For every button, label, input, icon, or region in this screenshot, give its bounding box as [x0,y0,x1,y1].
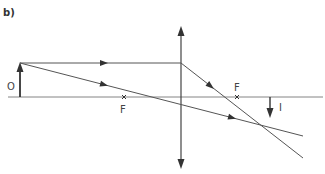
ray-direction-arrow-icon [100,60,108,66]
ray-direction-arrow-icon [206,81,215,89]
ray-diagram: b) O F F I [0,0,325,174]
lens-bottom-arrowhead-icon [178,159,185,169]
converging-lens [178,26,185,169]
part-label: b) [3,7,15,18]
lens-top-arrowhead-icon [178,26,185,36]
object-arrow [17,62,24,97]
image-label: I [279,102,282,113]
object-label: O [7,81,15,92]
image-arrow [267,97,274,118]
ray-parallel [20,60,303,158]
ray-central [20,63,303,136]
ray-direction-arrow-icon [100,81,109,87]
focal-left-label: F [120,104,126,115]
focal-right-label: F [234,82,240,93]
ray-direction-arrow-icon [228,114,237,120]
